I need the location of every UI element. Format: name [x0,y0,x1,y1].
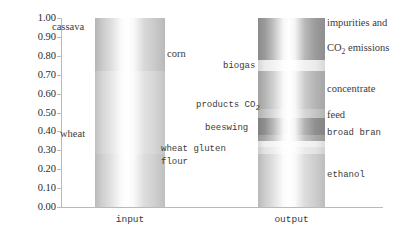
callout-co2-text: CO [327,42,342,53]
callout-impurities-line2: CO2 emissions [327,41,389,58]
callout-feed: feed [327,108,345,121]
callout-emissions-text: emissions [345,42,389,53]
y-tick-label: 0.50 [12,108,56,118]
bar-segment[interactable] [258,147,325,155]
y-tick-mark [57,150,61,151]
callout-ethanol: ethanol [327,170,365,182]
bar-segment[interactable] [95,71,165,154]
callout-biogas: biogas [223,61,255,73]
y-tick-label: 0.10 [12,183,56,193]
y-tick-mark [57,188,61,189]
bar-segment[interactable] [95,154,165,207]
bar-segment[interactable] [258,71,325,109]
callout-cassava: cassava [52,20,84,33]
y-tick-mark [57,207,61,208]
callout-products-co2-text: products CO [196,100,255,110]
bar-segment[interactable] [258,18,325,60]
x-tick-label-output: output [258,214,325,225]
y-tick-mark [57,37,61,38]
y-tick-label: 0.70 [12,70,56,80]
callout-products-co2: products CO2 [196,100,260,114]
callout-corn: corn [167,47,186,60]
callout-impurities-line1: impurities and [327,16,387,29]
y-tick-mark [57,113,61,114]
y-tick-label: 0.90 [12,32,56,42]
bar-input[interactable] [95,18,165,207]
y-axis-tick-labels: 1.000.900.800.700.600.500.400.300.200.10… [6,0,56,235]
callout-wheat-gluten-line1: wheat gluten [161,144,226,156]
callout-wheat-gluten-line2: flour [161,157,188,169]
y-axis-line [61,18,62,208]
y-tick-mark [57,75,61,76]
y-tick-label: 0.40 [12,126,56,136]
stacked-bar-chart: 1.000.900.800.700.600.500.400.300.200.10… [0,0,398,235]
y-tick-label: 1.00 [12,13,56,23]
callout-wheat: wheat [60,127,85,140]
callout-concentrate: concentrate [327,82,375,95]
y-tick-label: 0.20 [12,164,56,174]
x-axis-line [61,207,383,208]
y-tick-mark [57,94,61,95]
bar-segment[interactable] [258,60,325,71]
bar-segment[interactable] [258,118,325,135]
callout-beeswing: beeswing [205,123,248,135]
bar-segment[interactable] [258,109,325,118]
y-tick-label: 0.80 [12,51,56,61]
bar-segment[interactable] [258,154,325,207]
y-tick-mark [57,169,61,170]
y-tick-label: 0.60 [12,89,56,99]
bar-segment[interactable] [95,18,165,71]
callout-products-co2-subscript: 2 [255,104,260,112]
y-tick-mark [57,56,61,57]
y-tick-mark [57,18,61,19]
y-tick-label: 0.30 [12,145,56,155]
bar-output[interactable] [258,18,325,207]
y-tick-label: 0.00 [12,202,56,212]
callout-broad-bran: broad bran [327,128,381,140]
x-tick-label-input: input [95,214,165,225]
